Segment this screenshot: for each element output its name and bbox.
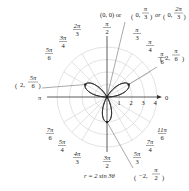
angle-label: π3 (133, 26, 141, 41)
point-2-pi-6 (127, 83, 129, 85)
angle-label: 5π6 (45, 46, 53, 61)
angle-label: 3π4 (59, 34, 67, 49)
polar-plot: 1 2 3 4 0 π π2π3π4π62π33π45π67π65π44π33π… (0, 0, 189, 191)
svg-text:3π: 3π (59, 34, 67, 41)
svg-text:3π: 3π (103, 154, 111, 161)
svg-text:π: π (135, 26, 139, 33)
svg-text:π: π (174, 47, 178, 54)
svg-text:): ) (162, 174, 164, 182)
svg-text:0,: 0, (136, 11, 141, 18)
angle-label: 5π3 (133, 150, 141, 165)
axis-label-pi: π (38, 94, 42, 101)
svg-text:2π: 2π (175, 5, 182, 12)
svg-text:5π: 5π (46, 46, 53, 53)
angle-label: 11π6 (157, 126, 167, 141)
svg-text:4: 4 (148, 146, 152, 153)
svg-text:π: π (154, 166, 158, 173)
point-pole (106, 96, 108, 98)
polar-graph-figure: 1 2 3 4 0 π π2π3π4π62π33π45π67π65π44π33π… (0, 0, 189, 191)
svg-text:2: 2 (105, 162, 108, 169)
svg-text:2,: 2, (20, 81, 25, 88)
svg-text:6: 6 (48, 134, 52, 141)
svg-text:): ) (182, 55, 184, 63)
radial-tick-labels: 1 2 3 4 (118, 99, 158, 106)
svg-text:2: 2 (154, 174, 157, 181)
radial-tick-1: 1 (118, 99, 121, 106)
equation-caption: r = 2 sin 3θ (84, 172, 116, 179)
svg-text:5π: 5π (59, 138, 66, 145)
angle-label: π2 (103, 20, 111, 35)
svg-text:π: π (105, 20, 109, 27)
radial-tick-2: 2 (130, 99, 133, 106)
point-2-5pi-6 (84, 83, 86, 85)
svg-text:(: ( (163, 13, 165, 21)
angle-label: 7π6 (46, 126, 54, 141)
angle-label: 4π3 (73, 150, 81, 165)
annotation-point-2-5pi-6: ( 2, 5π 6 ) (15, 74, 41, 90)
svg-text:6: 6 (31, 82, 35, 89)
svg-text:3: 3 (75, 30, 78, 37)
svg-text:6: 6 (47, 54, 51, 61)
annotation-point-neg2-pi-2: ( −2, π 2 ) (134, 166, 164, 182)
point-neg2-pi-2 (106, 121, 108, 123)
svg-text:4: 4 (61, 42, 65, 49)
axis-label-zero: 0 (165, 94, 168, 101)
svg-text:3: 3 (144, 13, 147, 20)
svg-text:(: ( (15, 82, 17, 90)
svg-text:6: 6 (160, 134, 164, 141)
annotation-leader-lines (42, 22, 157, 168)
svg-text:): ) (39, 82, 41, 90)
svg-text:4: 4 (60, 146, 64, 153)
angle-label: 5π4 (58, 138, 66, 153)
annotation-pole: (0, 0) or ( 0, π 3 ) or ( 0, 2π 3 ) (100, 5, 186, 21)
svg-text:4: 4 (148, 46, 152, 53)
svg-text:6: 6 (174, 55, 178, 62)
svg-text:5π: 5π (134, 150, 141, 157)
svg-text:): ) (184, 13, 186, 21)
leader-line-neg2-pi-2 (107, 122, 133, 168)
svg-text:3: 3 (177, 13, 180, 20)
svg-text:π: π (144, 5, 148, 12)
svg-text:0,: 0, (168, 11, 173, 18)
angle-label: 3π2 (103, 154, 111, 169)
radial-tick-3: 3 (142, 99, 145, 106)
svg-text:7π: 7π (47, 126, 54, 133)
svg-text:2: 2 (105, 28, 108, 35)
svg-text:−2,: −2, (139, 172, 148, 179)
angle-labels: π2π3π4π62π33π45π67π65π44π33π25π37π411π6 (45, 20, 167, 169)
svg-text:π: π (148, 38, 152, 45)
svg-text:3: 3 (75, 158, 78, 165)
svg-text:(: ( (134, 174, 136, 182)
svg-text:or: or (155, 11, 161, 18)
axis-arrow-icon (157, 95, 162, 99)
angle-label: 7π4 (146, 138, 154, 153)
svg-text:7π: 7π (147, 138, 154, 145)
angle-label: π4 (146, 38, 154, 53)
svg-text:11π: 11π (157, 126, 167, 133)
leader-line-5pi-6 (42, 85, 85, 89)
svg-text:(: ( (131, 13, 133, 21)
svg-text:3: 3 (135, 34, 138, 41)
svg-text:): ) (150, 13, 152, 21)
svg-text:4π: 4π (74, 150, 81, 157)
angle-label: 2π3 (73, 22, 81, 37)
svg-text:2,: 2, (165, 54, 170, 61)
svg-text:3: 3 (135, 158, 138, 165)
svg-text:5π: 5π (30, 74, 37, 81)
svg-text:2π: 2π (74, 22, 81, 29)
paren-open: ( (160, 55, 162, 63)
svg-text:(0, 0) or: (0, 0) or (100, 11, 122, 19)
